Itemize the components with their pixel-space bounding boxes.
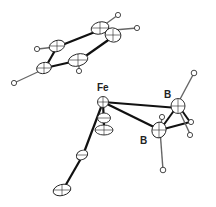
hydrogen-atom-icon bbox=[187, 132, 192, 137]
carbon-atom-icon bbox=[98, 113, 111, 123]
carbon-atom-icon bbox=[75, 148, 90, 162]
hydrogen-atom-icon bbox=[134, 25, 139, 30]
ring-ch-bonds bbox=[14, 15, 137, 83]
carbonyl-atoms bbox=[52, 113, 113, 198]
oxygen-atom-icon bbox=[95, 125, 113, 135]
hydrogen-atom-icon bbox=[159, 114, 164, 119]
label-b-upper: B bbox=[164, 89, 171, 100]
label-b-lower: B bbox=[140, 135, 147, 146]
oxygen-atom-icon bbox=[52, 182, 72, 197]
carbon-atom-icon bbox=[35, 61, 52, 76]
hydrogen-atom-icon bbox=[191, 70, 197, 76]
hydrogen-atom-icon bbox=[34, 46, 39, 51]
boron-atom-icon bbox=[171, 99, 185, 114]
carbon-atom-icon bbox=[48, 38, 67, 54]
carbon-atom-icon bbox=[67, 52, 89, 69]
molecular-structure-diagram: Fe B B bbox=[0, 0, 216, 207]
hydrogen-atom-icon bbox=[115, 12, 120, 17]
label-fe: Fe bbox=[97, 82, 109, 93]
hydrogen-atom-icon bbox=[11, 80, 16, 85]
hydrogen-atom-icon bbox=[76, 68, 81, 73]
hydrogen-atom-icon bbox=[160, 167, 166, 173]
hydrogen-atom-icon bbox=[188, 119, 193, 124]
iron-atom-icon bbox=[98, 97, 109, 108]
